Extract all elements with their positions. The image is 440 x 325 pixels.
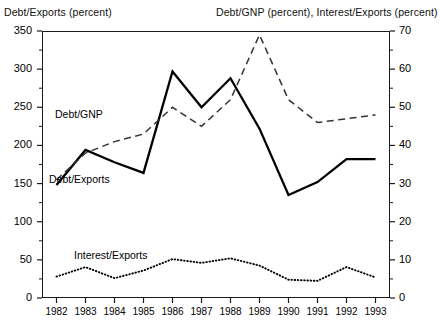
y2-tick-label: 0: [399, 291, 429, 303]
y-tick-label: 150: [2, 177, 32, 189]
y-tick-label: 100: [2, 215, 32, 227]
y2-tick-label: 60: [399, 62, 429, 74]
series-line-interest-exports: [57, 258, 376, 281]
chart-container: Debt/Exports (percent) Debt/GNP (percent…: [0, 0, 440, 325]
y2-tick-label: 70: [399, 24, 429, 36]
series-label-debt-exports: Debt/Exports: [49, 173, 110, 185]
series-label-debt-gnp: Debt/GNP: [55, 108, 103, 120]
y2-tick-label: 40: [399, 138, 429, 150]
y-tick-label: 250: [2, 100, 32, 112]
y2-tick-label: 30: [399, 177, 429, 189]
y-tick-label: 200: [2, 138, 32, 150]
right-axis-ticks: [390, 31, 395, 298]
y2-tick-label: 10: [399, 253, 429, 265]
y-tick-label: 50: [2, 253, 32, 265]
y-tick-label: 0: [2, 291, 32, 303]
y-tick-label: 300: [2, 62, 32, 74]
chart-svg: [0, 0, 440, 325]
y-tick-label: 350: [2, 24, 32, 36]
series-label-interest-exports: Interest/Exports: [74, 249, 148, 261]
left-axis-ticks: [37, 31, 42, 298]
x-axis-ticks: [57, 298, 376, 303]
y2-tick-label: 50: [399, 100, 429, 112]
y2-tick-label: 20: [399, 215, 429, 227]
x-tick-label: 1993: [356, 306, 396, 317]
